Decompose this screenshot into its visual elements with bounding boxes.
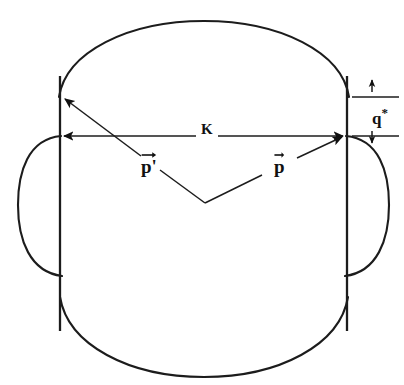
diagram-canvas: [0, 0, 404, 385]
fermi-sphere-bottom-arc: [60, 297, 348, 377]
p-prime-vector-upper-segment: [65, 99, 141, 156]
p-vector-upper-segment: [297, 137, 342, 158]
label-wavevector-K: K: [201, 122, 213, 137]
label-momentum-p: p: [274, 157, 285, 176]
left-lens-lobe: [18, 136, 62, 276]
label-momentum-p-prime: p': [141, 157, 157, 176]
p-vector-lower-segment: [205, 175, 262, 203]
label-momentum-p-prime-text: p': [141, 156, 157, 177]
label-gap-q-star: q*: [372, 106, 388, 127]
scattering-diagram: K p' p q*: [0, 0, 404, 385]
vector-arrow-overbar-p-prime: [141, 151, 157, 158]
vector-arrow-overbar-p: [274, 151, 285, 158]
fermi-sphere-top-arc: [59, 21, 349, 97]
p-prime-vector-lower-segment: [160, 170, 205, 203]
label-gap-q-asterisk: *: [381, 105, 388, 120]
label-momentum-p-text: p: [274, 156, 285, 177]
right-lens-lobe: [345, 136, 389, 276]
